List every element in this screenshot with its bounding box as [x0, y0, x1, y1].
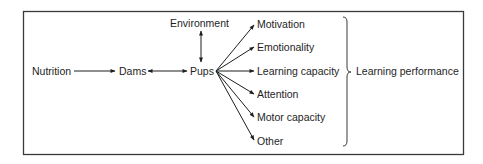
node-environment: Environment — [170, 17, 229, 29]
node-dams: Dams — [119, 65, 146, 77]
node-attention: Attention — [257, 88, 299, 100]
node-motivation: Motivation — [257, 18, 305, 30]
node-learning-capacity: Learning capacity — [257, 65, 340, 77]
outcome-list: Motivation Emotionality Learning capacit… — [257, 18, 340, 147]
node-emotionality: Emotionality — [257, 41, 315, 53]
node-nutrition: Nutrition — [32, 65, 71, 77]
arrow-pups-to-motor-capacity — [216, 71, 254, 117]
pups-outcome-arrows — [216, 25, 254, 140]
arrow-pups-to-other — [216, 71, 254, 140]
grouping-brace — [343, 17, 351, 146]
node-motor-capacity: Motor capacity — [257, 111, 326, 123]
diagram-frame — [24, 12, 464, 155]
arrow-pups-to-motivation — [216, 25, 254, 71]
node-pups: Pups — [190, 65, 214, 77]
arrow-pups-to-attention — [216, 71, 254, 94]
node-learning-performance: Learning performance — [356, 65, 459, 77]
arrow-pups-to-emotionality — [216, 47, 254, 71]
nutrition-learning-diagram: Nutrition Dams Pups Environment Motivati… — [0, 0, 483, 164]
node-other: Other — [257, 135, 284, 147]
